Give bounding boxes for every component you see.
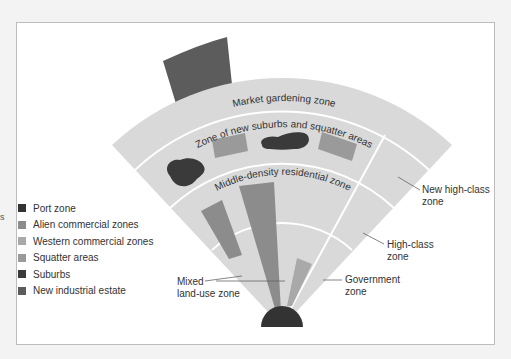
callout-mixed-land-use: Mixed land-use zone xyxy=(177,276,240,300)
callout-high-class: High-class zone xyxy=(387,239,434,263)
swatch-squatter xyxy=(18,254,26,262)
swatch-new-industrial xyxy=(18,287,26,295)
city-model-diagram: Market gardening zone Zone of new suburb… xyxy=(0,0,511,359)
fan-sector xyxy=(112,78,452,327)
swatch-western-commercial xyxy=(18,237,26,245)
legend-item-suburbs: Suburbs xyxy=(18,266,153,283)
legend: Port zone Alien commercial zones Western… xyxy=(18,200,153,299)
swatch-alien-commercial xyxy=(18,221,26,229)
legend-item-port-zone: Port zone xyxy=(18,200,153,217)
callout-government: Government zone xyxy=(345,274,400,298)
swatch-suburbs xyxy=(18,270,26,278)
leader-high-class xyxy=(363,233,384,244)
legend-item-alien-commercial: Alien commercial zones xyxy=(18,217,153,234)
swatch-port-zone xyxy=(18,204,26,212)
legend-item-squatter: Squatter areas xyxy=(18,250,153,267)
callout-new-high-class: New high-class zone xyxy=(422,184,490,208)
legend-item-western-commercial: Western commercial zones xyxy=(18,233,153,250)
legend-item-new-industrial: New industrial estate xyxy=(18,283,153,300)
